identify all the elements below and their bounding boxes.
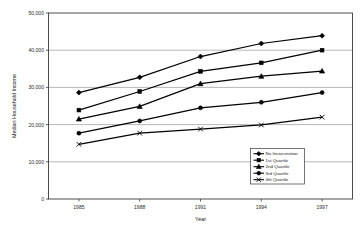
data-point-diamond-marker [137,75,142,80]
data-point-circle-marker [257,171,261,175]
x-tick-label: 1997 [316,204,327,210]
y-tick-label: 20,000 [28,122,44,128]
line-chart: 010,00020,00030,00040,00050,000 19851988… [0,0,362,235]
series-line-4th-quartile [79,117,322,144]
data-point-square-marker [138,90,142,94]
data-point-diamond-marker [320,33,325,38]
data-point-circle-marker [199,106,203,110]
x-tick-label: 1991 [195,204,206,210]
series-lines [79,36,322,145]
y-tick-label: 10,000 [28,159,44,165]
y-tick-label: 50,000 [28,10,44,16]
data-point-diamond-marker [198,54,203,59]
x-tick-label: 1994 [256,204,267,210]
y-tick-label: 0 [41,196,44,202]
chart-container: 010,00020,00030,00040,00050,000 19851988… [0,0,362,235]
data-point-circle-marker [138,119,142,123]
data-point-diamond-marker [259,41,264,46]
data-point-square-marker [77,108,81,112]
y-tick-label: 30,000 [28,84,44,90]
data-point-circle-marker [320,91,324,95]
x-axis-title: Year [195,216,206,222]
legend-label-4th-quartile: 4th Quartile [266,177,289,182]
data-point-circle-marker [259,100,263,104]
legend-label-3rd-quartile: 3rd Quartile [266,171,289,176]
y-axis-ticks: 010,00020,00030,00040,00050,000 [28,10,48,202]
x-tick-label: 1988 [134,204,145,210]
data-point-square-marker [320,48,324,52]
legend-label-2nd-quartile: 2nd Quartile [266,164,290,169]
legend-label-1st-quartile: 1st Quartile [266,158,289,163]
data-point-diamond-marker [76,90,81,95]
x-tick-label: 1985 [73,204,84,210]
legend-label-no-incarceration: No Incarceration [266,151,299,156]
legend: No Incarceration1st Quartile2nd Quartile… [251,149,305,185]
data-point-square-marker [257,159,260,162]
series-line-2nd-quartile [79,71,322,119]
y-axis-title: Median Household Income [11,74,17,138]
y-tick-label: 40,000 [28,47,44,53]
data-point-square-marker [259,61,263,65]
data-point-circle-marker [77,131,81,135]
x-axis-ticks: 19851988199119941997 [73,199,328,210]
data-point-square-marker [199,70,203,74]
